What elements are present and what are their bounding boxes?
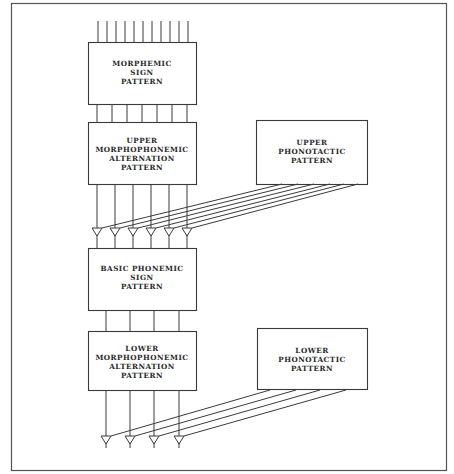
top-input-lines <box>98 21 188 42</box>
frame-border <box>12 4 447 471</box>
box-label: PATTERN <box>291 156 333 165</box>
upper-phonotactic-pattern-box: UPPER PHONOTACTIC PATTERN <box>257 121 368 185</box>
box-label: PATTERN <box>121 163 163 172</box>
lower-phonotactic-diagonal-lines <box>111 390 346 436</box>
box-label: PATTERN <box>291 364 333 373</box>
box-label: SIGN <box>130 68 153 77</box>
box-label: BASIC PHONEMIC <box>101 264 184 273</box>
box-label: ALTERNATION <box>108 362 175 371</box>
box-label: LOWER <box>295 346 329 355</box>
box-label: UPPER <box>126 136 158 145</box>
lower-and-node-triangles <box>101 436 184 444</box>
box-label: SIGN <box>130 273 153 282</box>
box-label: PHONOTACTIC <box>278 355 345 364</box>
lower-morphophonemic-alternation-pattern-box: LOWER MORPHOPHONEMIC ALTERNATION PATTERN <box>89 332 197 391</box>
upper-phonotactic-diagonal-lines <box>102 184 358 228</box>
box-label: PATTERN <box>121 77 163 86</box>
box-label: UPPER <box>296 138 328 147</box>
box-label: LOWER <box>125 344 159 353</box>
box-label: PHONOTACTIC <box>278 147 345 156</box>
morphemic-sign-pattern-box: MORPHEMIC SIGN PATTERN <box>89 43 197 105</box>
box-label: MORPHEMIC <box>112 59 171 68</box>
upper-output-lines <box>97 185 187 248</box>
lower-phonotactic-pattern-box: LOWER PHONOTACTIC PATTERN <box>258 329 368 390</box>
upper-and-node-triangles <box>92 228 192 236</box>
box-label: ALTERNATION <box>108 154 175 163</box>
box-label: PATTERN <box>121 371 163 380</box>
basic-to-lower-morphophonemic-lines <box>106 310 179 331</box>
morphemic-to-morphophonemic-lines <box>97 104 187 122</box>
box-label: MORPHOPHONEMIC <box>95 353 188 362</box>
diagram-canvas: MORPHEMIC SIGN PATTERN UPPER MORPHOPHONE… <box>0 0 454 474</box>
box-label: PATTERN <box>121 282 163 291</box>
box-label: MORPHOPHONEMIC <box>95 145 188 154</box>
basic-phonemic-sign-pattern-box: BASIC PHONEMIC SIGN PATTERN <box>89 249 197 311</box>
upper-morphophonemic-alternation-pattern-box: UPPER MORPHOPHONEMIC ALTERNATION PATTERN <box>89 123 197 185</box>
